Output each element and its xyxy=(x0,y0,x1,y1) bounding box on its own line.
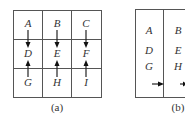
cell-label-d: D xyxy=(144,44,153,56)
cell-label-c: C xyxy=(82,17,90,29)
arrow-partial-right xyxy=(180,82,185,87)
panel-a: A B C D E F G H I xyxy=(14,11,102,115)
panel-b-caption: (b) xyxy=(172,101,185,114)
cell-label-e: E xyxy=(53,47,61,59)
cell-label-g: G xyxy=(145,60,153,72)
panel-b: A D G B E H (b) xyxy=(136,10,186,115)
cell-label-b: B xyxy=(54,17,61,29)
cell-label-e: E xyxy=(174,44,182,56)
cell-label-h: H xyxy=(173,60,183,72)
arrow-right-into-divider xyxy=(152,82,164,87)
cell-label-a: A xyxy=(24,17,32,29)
diagram-canvas: A B C D E F G H I xyxy=(0,0,185,126)
cell-label-h: H xyxy=(52,76,62,88)
cell-label-d: D xyxy=(23,47,32,59)
cell-label-b: B xyxy=(175,24,182,36)
cell-label-f: F xyxy=(82,47,90,59)
cell-label-i: I xyxy=(83,76,89,88)
cell-label-a: A xyxy=(145,24,153,36)
panel-a-caption: (a) xyxy=(51,101,64,114)
cell-label-g: G xyxy=(24,76,32,88)
